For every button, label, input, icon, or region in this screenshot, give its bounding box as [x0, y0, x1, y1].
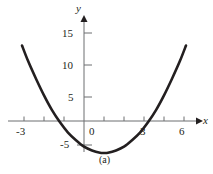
x-tick-label-6: 6	[179, 126, 185, 137]
figure-container: -3 0 3 6 15 10 5 -5 x y (a)	[0, 0, 213, 174]
y-tick-label-neg5: -5	[60, 139, 69, 150]
y-tick-label-15: 15	[62, 28, 73, 39]
y-tick-label-5: 5	[68, 92, 74, 103]
y-axis-label: y	[76, 3, 81, 14]
graph-plot	[0, 0, 213, 174]
x-tick-label-neg3: -3	[16, 126, 25, 137]
x-tick-label-3: 3	[140, 126, 146, 137]
figure-caption: (a)	[99, 155, 110, 165]
x-tick-label-0: 0	[89, 126, 95, 137]
x-axis-arrowhead	[196, 118, 203, 125]
x-axis-ticks	[24, 117, 184, 122]
y-tick-label-10: 10	[62, 60, 73, 71]
x-axis-label: x	[203, 115, 208, 126]
parabola-curve	[22, 45, 186, 153]
y-axis-arrowhead	[81, 15, 88, 22]
